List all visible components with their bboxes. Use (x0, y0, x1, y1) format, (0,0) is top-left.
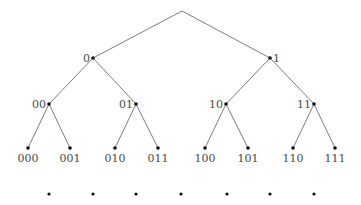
tree-node-000 (26, 146, 30, 150)
tree-node-111 (333, 146, 337, 150)
node-label-1: 1 (273, 52, 280, 65)
node-label-00: 00 (32, 98, 46, 111)
nodes-group (26, 56, 337, 150)
labels-group: 0100011011000001010011100101110111 (18, 52, 346, 165)
tree-node-011 (156, 146, 160, 150)
tree-node-100 (203, 146, 207, 150)
continuation-dot (312, 192, 315, 195)
tree-node-11 (312, 102, 316, 106)
tree-edge (226, 58, 270, 104)
tree-edge (93, 11, 182, 58)
tree-svg: 0100011011000001010011100101110111 (0, 0, 361, 205)
node-label-0: 0 (83, 52, 90, 65)
node-label-011: 011 (148, 152, 169, 165)
node-label-101: 101 (238, 152, 259, 165)
node-label-10: 10 (209, 98, 223, 111)
continuation-dot (134, 192, 137, 195)
tree-node-00 (47, 102, 51, 106)
node-label-010: 010 (105, 152, 126, 165)
node-label-000: 000 (18, 152, 39, 165)
node-label-11: 11 (297, 98, 311, 111)
binary-tree-diagram: 0100011011000001010011100101110111 (0, 0, 361, 205)
node-label-01: 01 (119, 98, 133, 111)
continuation-dot (225, 192, 228, 195)
node-label-001: 001 (60, 152, 81, 165)
tree-edge (49, 104, 70, 148)
tree-node-01 (134, 102, 138, 106)
continuation-dot (91, 192, 94, 195)
node-label-100: 100 (195, 152, 216, 165)
continuation-dot (179, 192, 182, 195)
edges-group (28, 11, 335, 148)
node-label-110: 110 (283, 152, 304, 165)
tree-edge (136, 104, 158, 148)
tree-node-010 (113, 146, 117, 150)
continuation-dot (268, 192, 271, 195)
tree-edge (314, 104, 335, 148)
continuation-dots-group (47, 192, 315, 195)
tree-edge (226, 104, 248, 148)
node-label-111: 111 (325, 152, 346, 165)
tree-node-001 (68, 146, 72, 150)
tree-node-1 (268, 56, 272, 60)
tree-node-110 (291, 146, 295, 150)
tree-node-10 (224, 102, 228, 106)
tree-node-0 (91, 56, 95, 60)
tree-edge (182, 11, 270, 58)
continuation-dot (47, 192, 50, 195)
tree-node-101 (246, 146, 250, 150)
